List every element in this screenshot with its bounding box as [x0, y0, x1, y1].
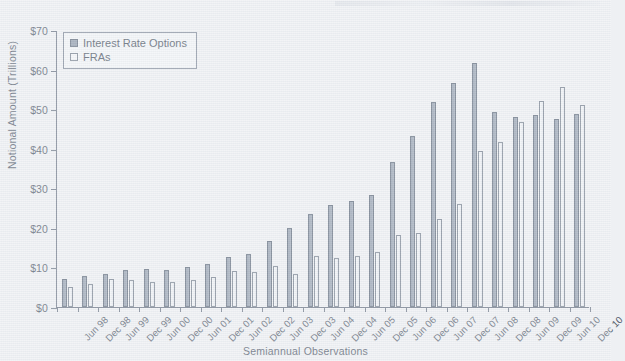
- bar-interest-rate-options: [205, 264, 210, 307]
- bar-interest-rate-options: [226, 257, 231, 307]
- bar-group: [467, 31, 488, 307]
- legend-swatch-interest-rate-options: [70, 39, 78, 47]
- bar-interest-rate-options: [390, 162, 395, 307]
- y-axis-tick: [51, 150, 57, 151]
- bar-group: [406, 31, 427, 307]
- y-axis-title: Notional Amount (Trillions): [6, 41, 18, 169]
- bar-group: [324, 31, 345, 307]
- bar-fras: [170, 282, 175, 307]
- bar-group: [447, 31, 468, 307]
- x-axis-tick: [303, 307, 304, 312]
- bar-fras: [232, 271, 237, 307]
- x-axis-tick: [78, 307, 79, 312]
- legend-item-fras: FRAs: [70, 50, 187, 64]
- x-axis-tick: [590, 307, 591, 312]
- bar-group: [221, 31, 242, 307]
- bar-group: [262, 31, 283, 307]
- y-axis-tick-label: $30: [30, 183, 48, 195]
- y-axis-tick-label: $70: [30, 25, 48, 37]
- legend-label-interest-rate-options: Interest Rate Options: [83, 37, 187, 49]
- bar-fras: [273, 266, 278, 307]
- bar-fras: [314, 256, 319, 307]
- bar-fras: [355, 256, 360, 307]
- y-axis-tick: [51, 71, 57, 72]
- bar-interest-rate-options: [82, 276, 87, 307]
- y-axis-tick-label: $0: [36, 302, 48, 314]
- bar-interest-rate-options: [349, 201, 354, 307]
- x-axis-tick: [98, 307, 99, 312]
- bar-fras: [211, 277, 216, 307]
- bar-interest-rate-options: [410, 136, 415, 307]
- x-axis-tick: [57, 307, 58, 312]
- x-axis-tick: [385, 307, 386, 312]
- x-axis-tick: [262, 307, 263, 312]
- bar-group: [139, 31, 160, 307]
- bar-group: [508, 31, 529, 307]
- bar-interest-rate-options: [144, 269, 149, 307]
- x-axis-tick: [426, 307, 427, 312]
- bar-interest-rate-options: [103, 274, 108, 307]
- bar-fras: [88, 284, 93, 307]
- bar-fras: [539, 101, 544, 307]
- bar-fras: [375, 252, 380, 307]
- bar-fras: [68, 287, 73, 307]
- bar-fras: [519, 122, 524, 307]
- bar-interest-rate-options: [472, 63, 477, 307]
- x-axis-tick: [221, 307, 222, 312]
- bar-group: [303, 31, 324, 307]
- y-axis-tick-label: $40: [30, 144, 48, 156]
- bar-interest-rate-options: [62, 279, 67, 307]
- x-axis-tick: [508, 307, 509, 312]
- x-axis-tick: [242, 307, 243, 312]
- y-axis-tick: [51, 110, 57, 111]
- bar-fras: [334, 258, 339, 307]
- x-axis-tick: [324, 307, 325, 312]
- bar-interest-rate-options: [246, 254, 251, 307]
- bar-fras: [560, 87, 565, 307]
- bar-group: [549, 31, 570, 307]
- y-axis-tick-label: $60: [30, 65, 48, 77]
- x-axis-tick: [570, 307, 571, 312]
- bar-fras: [457, 204, 462, 307]
- bar-interest-rate-options: [492, 112, 497, 307]
- bar-interest-rate-options: [451, 83, 456, 307]
- x-axis-tick: [447, 307, 448, 312]
- x-axis-tick: [467, 307, 468, 312]
- bar-group: [119, 31, 140, 307]
- y-axis-tick: [51, 268, 57, 269]
- bar-interest-rate-options: [267, 241, 272, 307]
- x-axis-tick: [549, 307, 550, 312]
- chart-legend: Interest Rate Options FRAs: [63, 32, 197, 69]
- plot-area: $0$10$20$30$40$50$60$70Jun 98Dec 98Jun 9…: [56, 31, 589, 308]
- bar-interest-rate-options: [164, 270, 169, 307]
- x-axis-tick: [119, 307, 120, 312]
- x-axis-tick: [139, 307, 140, 312]
- legend-item-interest-rate-options: Interest Rate Options: [70, 36, 187, 50]
- bar-fras: [416, 233, 421, 307]
- bar-fras: [150, 282, 155, 307]
- y-axis-tick: [51, 31, 57, 32]
- y-axis-tick-label: $20: [30, 223, 48, 235]
- bar-group: [344, 31, 365, 307]
- bar-interest-rate-options: [185, 267, 190, 307]
- x-axis-tick: [488, 307, 489, 312]
- bar-fras: [437, 219, 442, 307]
- bar-fras: [252, 272, 257, 307]
- bar-interest-rate-options: [123, 270, 128, 307]
- bar-fras: [129, 280, 134, 307]
- y-axis-tick-label: $50: [30, 104, 48, 116]
- bar-group: [98, 31, 119, 307]
- bar-fras: [293, 274, 298, 307]
- bar-group: [201, 31, 222, 307]
- legend-swatch-fras: [70, 53, 78, 61]
- legend-label-fras: FRAs: [83, 51, 111, 63]
- x-axis-tick: [201, 307, 202, 312]
- bar-group: [570, 31, 591, 307]
- bar-fras: [580, 105, 585, 307]
- bar-group: [283, 31, 304, 307]
- x-axis-tick: [529, 307, 530, 312]
- bar-fras: [191, 280, 196, 307]
- bar-group: [57, 31, 78, 307]
- bar-group: [385, 31, 406, 307]
- bar-interest-rate-options: [287, 228, 292, 307]
